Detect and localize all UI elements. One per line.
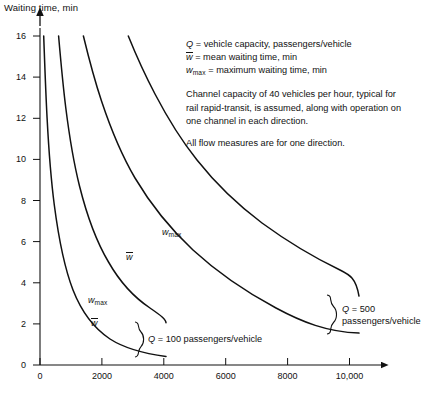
y-tick-label-12: 12	[4, 113, 26, 123]
legend-paragraph-2: All flow measures are for one direction.	[186, 137, 402, 150]
curve-label-wbar-q100-symbol: w	[91, 318, 98, 328]
brace-label-q500-line2: passengers/vehicle	[342, 315, 421, 327]
y-tick-label-8: 8	[4, 196, 26, 206]
y-tick-label-16: 16	[4, 31, 26, 41]
curve-label-wbar-q500: w	[126, 252, 133, 262]
brace-label-q500-line1: Q = 500	[342, 303, 421, 315]
brace-label-q500-equals: =	[352, 304, 357, 314]
y-tick-label-2: 2	[4, 319, 26, 329]
legend-notes-block: Q = vehicle capacity, passengers/vehicle…	[186, 38, 402, 150]
y-tick-label-10: 10	[4, 154, 26, 164]
y-tick-label-4: 4	[4, 278, 26, 288]
curve-label-wmax-q100: wmax	[88, 295, 108, 306]
curve-label-wbar-q500-symbol: w	[126, 252, 133, 262]
x-tick-label-6000: 6000	[216, 371, 236, 381]
brace-label-q100-value: 100 passengers/vehicle	[166, 334, 263, 344]
x-tick-label-0: 0	[37, 371, 42, 381]
y-tick-marks	[33, 36, 40, 365]
legend-definition-wmax-desc: = maximum waiting time, min	[208, 65, 327, 75]
x-tick-marks	[40, 358, 350, 365]
y-tick-label-14: 14	[4, 72, 26, 82]
legend-definition-wbar: w = mean waiting time, min	[186, 51, 402, 64]
x-tick-label-2000: 2000	[92, 371, 112, 381]
legend-definition-q-desc: = vehicle capacity, passengers/vehicle	[196, 39, 352, 49]
symbol-w-bar: w	[186, 52, 193, 62]
x-tick-label-8000: 8000	[278, 371, 298, 381]
brace-label-q100-symbol: Q	[148, 334, 155, 344]
symbol-w: w	[186, 65, 193, 75]
brace-label-q100: Q = 100 passengers/vehicle	[148, 333, 262, 345]
brace-label-q500-value: 500	[360, 304, 375, 314]
y-tick-label-0: 0	[4, 360, 26, 370]
curve-label-wbar-q100: w	[91, 318, 98, 328]
legend-definition-wbar-desc: = mean waiting time, min	[195, 52, 297, 62]
legend-definitions: Q = vehicle capacity, passengers/vehicle…	[186, 38, 402, 77]
brace-q500	[327, 295, 337, 334]
curve-wbar-q100	[44, 36, 166, 357]
y-tick-label-6: 6	[4, 237, 26, 247]
brace-label-q100-equals: =	[158, 334, 163, 344]
y-axis-title: Waiting time, min	[4, 2, 78, 13]
legend-paragraph-1: Channel capacity of 40 vehicles per hour…	[186, 88, 402, 127]
brace-label-q500-symbol: Q	[342, 304, 349, 314]
symbol-w-subscript: max	[193, 69, 206, 76]
curve-label-wmax-q500-subscript: max	[169, 231, 182, 238]
x-tick-label-10000: 10,000	[336, 371, 364, 381]
x-tick-label-4000: 4000	[154, 371, 174, 381]
curve-label-wmax-q500: wmax	[162, 227, 182, 238]
curve-label-wmax-q100-subscript: max	[95, 299, 108, 306]
legend-definition-q: Q = vehicle capacity, passengers/vehicle	[186, 38, 402, 51]
brace-label-q500: Q = 500 passengers/vehicle	[342, 303, 421, 328]
legend-definition-wmax: wmax = maximum waiting time, min	[186, 64, 402, 77]
curve-wmax-q100	[59, 36, 166, 323]
